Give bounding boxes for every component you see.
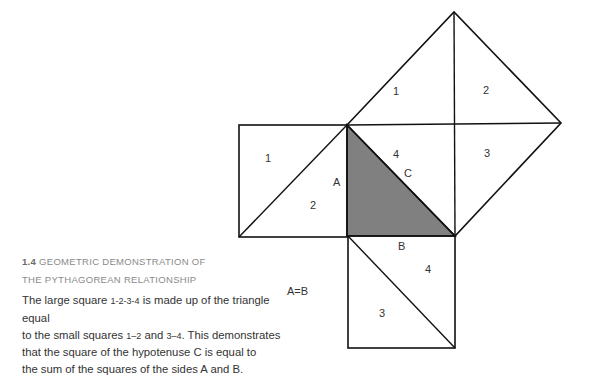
body-ref: 1-2-3-4: [111, 296, 140, 306]
region-label-top-2: 2: [483, 84, 489, 96]
caption-body-line1: The large square 1-2-3-4 is made up of t…: [22, 292, 292, 327]
side-label-a: A: [333, 176, 340, 188]
region-label-top-3: 3: [484, 147, 490, 159]
body-text: and: [141, 329, 166, 341]
body-ref: 1–2: [126, 331, 141, 341]
caption-title-line2: THE PYTHAGOREAN RELATIONSHIP: [22, 271, 292, 289]
region-label-left-1: 1: [265, 152, 271, 164]
caption-body-line4: the sum of the squares of the sides A an…: [22, 361, 292, 378]
side-label-b: B: [398, 240, 405, 252]
body-text: . This demonstrates: [181, 329, 280, 341]
body-text: to the small squares: [22, 329, 126, 341]
region-label-bottom-4: 4: [425, 263, 431, 275]
region-label-top-4: 4: [393, 148, 399, 160]
region-label-top-1: 1: [393, 85, 399, 97]
figure-caption: 1.4 GEOMETRIC DEMONSTRATION OF THE PYTHA…: [22, 253, 292, 378]
caption-body-line3: that the square of the hypotenuse C is e…: [22, 344, 292, 361]
hyp-square-horizontal: [347, 123, 561, 125]
region-label-bottom-3: 3: [379, 307, 385, 319]
square-b-diagonal: [348, 236, 455, 348]
region-label-left-2: 2: [310, 199, 316, 211]
square-a-diagonal: [239, 125, 347, 237]
caption-body: The large square 1-2-3-4 is made up of t…: [22, 292, 292, 378]
body-text: The large square: [22, 294, 111, 306]
caption-title-text1: GEOMETRIC DEMONSTRATION OF: [39, 256, 205, 267]
body-ref: 3–4: [166, 331, 181, 341]
caption-body-line2: to the small squares 1–2 and 3–4. This d…: [22, 327, 292, 345]
side-label-c: C: [404, 167, 412, 179]
caption-title-line1: 1.4 GEOMETRIC DEMONSTRATION OF: [22, 253, 292, 271]
figure-number: 1.4: [22, 256, 36, 267]
